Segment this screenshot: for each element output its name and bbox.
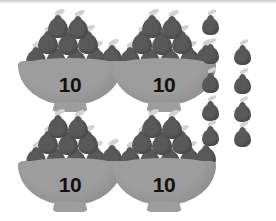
bowl-foot [146,202,182,212]
pear-icon [202,43,219,64]
pear-icon [234,73,251,94]
pear-icon [48,114,68,138]
pear-icon [234,126,251,147]
bowl-foot [52,202,88,212]
pear-body [202,76,219,93]
pear-body [202,18,219,35]
pear-icon [142,114,162,138]
pear-body [202,129,219,146]
pear-body [142,118,162,138]
pear-body [234,105,251,122]
worksheet-canvas: 10101010 [0,0,276,221]
bowl-count-label: 10 [18,174,122,195]
pear-body [48,18,68,38]
bowl-icon: 10 [18,158,122,214]
pear-body [234,48,251,65]
pear-body [202,47,219,64]
pear-body [234,130,251,147]
pear-icon [202,125,219,146]
pear-icon [234,44,251,65]
bowl-group: 10 [18,14,122,114]
bowl-icon: 10 [18,58,122,114]
pear-icon [162,15,182,39]
pear-body [162,119,182,139]
pear-body [68,19,88,39]
loose-fruits-group [196,14,262,146]
pear-icon [202,14,219,35]
pear-body [142,18,162,38]
pear-icon [202,72,219,93]
pear-body [48,118,68,138]
pear-icon [234,101,251,122]
top-rule-divider [0,0,276,3]
pear-body [162,19,182,39]
pear-icon [68,115,88,139]
bowl-count-label: 10 [112,174,216,195]
bowl-icon: 10 [112,158,216,214]
pear-icon [68,15,88,39]
pear-icon [48,14,68,38]
pear-body [68,119,88,139]
bowl-count-label: 10 [18,74,122,95]
pear-icon [142,14,162,38]
pear-body [202,104,219,121]
pear-body [234,77,251,94]
pear-icon [202,100,219,121]
bowl-group: 10 [18,114,122,214]
pear-icon [162,115,182,139]
